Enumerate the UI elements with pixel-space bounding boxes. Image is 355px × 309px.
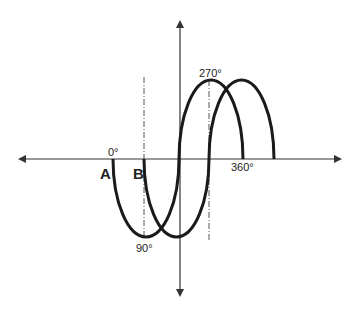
waveform-b-negative-half bbox=[144, 159, 209, 237]
waveform-a-negative-half bbox=[113, 159, 179, 237]
label-270-degrees: 270° bbox=[199, 67, 222, 79]
label-0-degrees: 0° bbox=[108, 146, 119, 158]
waveform-a-positive-half bbox=[179, 80, 243, 159]
phase-diagram: 0° A B 90° 270° 360° bbox=[0, 0, 355, 309]
label-360-degrees: 360° bbox=[231, 161, 254, 173]
label-waveform-a: A bbox=[100, 165, 111, 182]
label-90-degrees: 90° bbox=[136, 242, 153, 254]
label-waveform-b: B bbox=[133, 165, 144, 182]
